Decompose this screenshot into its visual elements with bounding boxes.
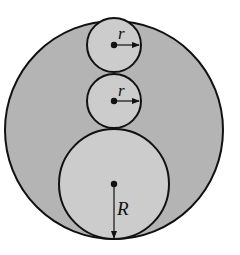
small-circle-top: r: [87, 18, 141, 72]
small-circle-middle: r: [87, 74, 141, 128]
diagram-canvas: r r R: [0, 0, 240, 255]
radius-label-r: r: [118, 24, 125, 43]
large-circle: R: [59, 129, 169, 239]
radius-label-R: R: [116, 198, 129, 219]
radius-label-r: r: [118, 81, 125, 100]
circles-diagram: r r R: [0, 0, 240, 255]
